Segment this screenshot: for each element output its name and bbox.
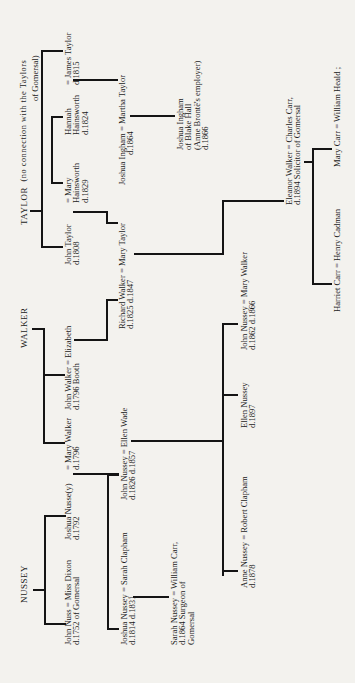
person-john-walker: John Walker = Elizabethd.1796 Booth [64, 295, 81, 410]
walker-family-heading: WALKER [20, 298, 28, 348]
person-anne-nussey: Anne Nussey = Robert Claphamd.1878 [240, 470, 257, 588]
connector-line [304, 161, 314, 163]
connector-line [312, 148, 332, 150]
connector-line [41, 246, 63, 248]
person-joshua-nussey-1792: Joshua Nusse(y)d.1792 [64, 470, 81, 540]
connector-line [51, 116, 53, 184]
connector-line [43, 328, 45, 444]
connector-line [134, 253, 224, 255]
connector-line [44, 515, 46, 625]
person-hannah-hainsworth: HannahHainsworthd.1824 [64, 85, 89, 135]
connector-line [222, 323, 224, 576]
connector-line [222, 200, 284, 202]
person-mary-carr: Mary Carr = William Heald ; [333, 55, 341, 167]
connector-line [43, 374, 65, 376]
connector-line [106, 299, 108, 341]
connector-line [222, 394, 238, 396]
connector-line [30, 210, 42, 212]
connector-line [51, 182, 63, 184]
connector-line [33, 589, 45, 591]
person-eleanor-walker: Eleanor Walker = Charles Carr,d.1894 Sol… [285, 70, 302, 205]
person-james-taylor: = James Taylord.1815 [64, 20, 81, 85]
connector-line [133, 596, 169, 598]
connector-line [222, 570, 238, 572]
person-mary-hainsworth: = MaryHainsworthd.1829 [64, 145, 89, 203]
connector-line [32, 328, 44, 330]
person-john-nussey-1826: John Nussey = Ellen Waded.1826 d.1857 [120, 390, 137, 500]
connector-line [107, 628, 119, 630]
person-john-nussey-1862: John Nussey = Mary Walkerd.1862 d.1866 [240, 225, 257, 350]
person-joshua-nussey-1814: Joshua Nussey = Sarah Claphamd.1814 d.18… [120, 527, 137, 645]
connector-line [41, 50, 43, 248]
connector-line [312, 148, 314, 284]
nussey-family-heading: NUSSEY [20, 553, 28, 603]
connector-line [41, 50, 63, 52]
connector-line [222, 200, 224, 255]
connector-line [43, 442, 65, 444]
person-john-nuss: John Nuss = Miss Dixond.1752 of Gomersal [64, 545, 81, 645]
person-sarah-nussey: Sarah Nussey = William Carr,d.1864 Surge… [170, 540, 195, 645]
connector-line [107, 473, 109, 629]
connector-line [51, 116, 63, 118]
taylor-family-note: of Gomersal) [31, 55, 39, 173]
person-mary-walker-1796: = Mary Walkerd.1796 [64, 410, 81, 470]
taylor-family-heading: TAYLOR (no connection with the Taylors [20, 55, 28, 225]
connector-line [107, 474, 119, 476]
connector-line [222, 323, 238, 325]
person-ellen-nussey: Ellen Nusseyd.1897 [240, 368, 257, 428]
connector-line [130, 115, 175, 117]
person-joshua-ingham-blake-hall: Joshua Inghamof Blake Hall(Anne Brontë's… [176, 40, 210, 150]
person-joshua-ingham: Joshua Ingham = Martha Taylord.1864 [118, 60, 135, 185]
person-john-taylor: John Taylord.1808 [64, 205, 81, 265]
person-richard-walker-mary-taylor: Richard Walker = Mary Taylord.1825 d.184… [118, 196, 135, 329]
person-harriet-carr: Harriet Carr = Henry Cadman [333, 200, 341, 312]
connector-line [312, 283, 332, 285]
connector-line [131, 440, 223, 442]
